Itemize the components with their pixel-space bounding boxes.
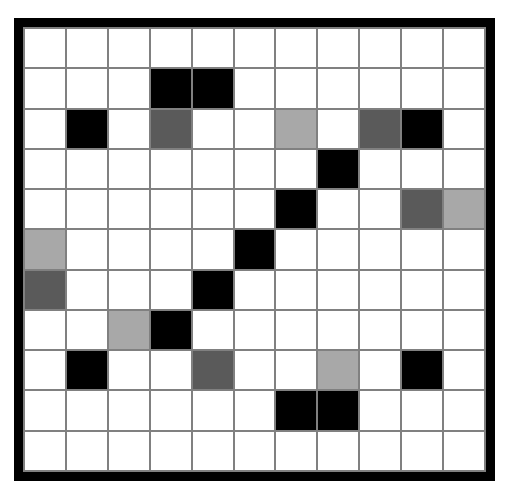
grid-cell[interactable] [444, 190, 484, 228]
grid-cell[interactable] [193, 110, 233, 148]
grid-cell[interactable] [109, 150, 149, 188]
grid-cell[interactable] [276, 29, 316, 67]
grid-cell[interactable] [402, 271, 442, 309]
grid-cell[interactable] [402, 69, 442, 107]
grid-cell[interactable] [444, 432, 484, 470]
grid-cell[interactable] [276, 391, 316, 429]
grid-cell[interactable] [444, 230, 484, 268]
grid-cell[interactable] [193, 311, 233, 349]
grid-cell[interactable] [235, 391, 275, 429]
grid-cell[interactable] [235, 271, 275, 309]
grid-cell[interactable] [360, 351, 400, 389]
grid-cell[interactable] [151, 110, 191, 148]
grid-cell[interactable] [193, 29, 233, 67]
grid-cell[interactable] [444, 311, 484, 349]
grid-cell[interactable] [25, 311, 65, 349]
grid-cell[interactable] [25, 391, 65, 429]
grid-cell[interactable] [402, 391, 442, 429]
grid-cell[interactable] [109, 351, 149, 389]
grid-cell[interactable] [151, 311, 191, 349]
grid-cell[interactable] [444, 391, 484, 429]
grid-cell[interactable] [67, 190, 107, 228]
grid-cell[interactable] [151, 271, 191, 309]
grid-cell[interactable] [402, 230, 442, 268]
grid-cell[interactable] [67, 311, 107, 349]
grid-cell[interactable] [360, 230, 400, 268]
grid-cell[interactable] [360, 271, 400, 309]
grid-cell[interactable] [444, 351, 484, 389]
grid-cell[interactable] [235, 190, 275, 228]
grid-cell[interactable] [25, 110, 65, 148]
grid-cell[interactable] [444, 150, 484, 188]
grid-cell[interactable] [193, 190, 233, 228]
grid-cell[interactable] [67, 230, 107, 268]
grid-cell[interactable] [276, 351, 316, 389]
grid-cell[interactable] [276, 150, 316, 188]
grid-cell[interactable] [360, 311, 400, 349]
grid-cell[interactable] [235, 432, 275, 470]
grid-cell[interactable] [235, 69, 275, 107]
grid-cell[interactable] [276, 190, 316, 228]
grid-cell[interactable] [67, 271, 107, 309]
grid-cell[interactable] [360, 432, 400, 470]
grid-cell[interactable] [402, 351, 442, 389]
grid-cell[interactable] [276, 230, 316, 268]
grid-cell[interactable] [360, 190, 400, 228]
grid-cell[interactable] [276, 69, 316, 107]
grid-cell[interactable] [360, 150, 400, 188]
grid-cell[interactable] [402, 29, 442, 67]
grid-cell[interactable] [235, 110, 275, 148]
grid-cell[interactable] [25, 351, 65, 389]
grid-cell[interactable] [25, 29, 65, 67]
grid-cell[interactable] [318, 150, 358, 188]
grid-cell[interactable] [67, 391, 107, 429]
grid-cell[interactable] [318, 351, 358, 389]
grid-cell[interactable] [109, 190, 149, 228]
grid-cell[interactable] [193, 391, 233, 429]
grid-cell[interactable] [402, 190, 442, 228]
grid-cell[interactable] [193, 230, 233, 268]
grid-cell[interactable] [360, 391, 400, 429]
grid-cell[interactable] [67, 150, 107, 188]
grid-cell[interactable] [109, 391, 149, 429]
grid-cell[interactable] [151, 190, 191, 228]
grid-cell[interactable] [402, 311, 442, 349]
grid-cell[interactable] [235, 230, 275, 268]
grid-cell[interactable] [444, 110, 484, 148]
grid-cell[interactable] [109, 69, 149, 107]
grid-cell[interactable] [67, 110, 107, 148]
grid-cell[interactable] [318, 29, 358, 67]
grid-cell[interactable] [444, 29, 484, 67]
grid-cell[interactable] [318, 190, 358, 228]
grid-cell[interactable] [444, 69, 484, 107]
grid-cell[interactable] [235, 150, 275, 188]
grid-cell[interactable] [151, 29, 191, 67]
grid-cell[interactable] [109, 110, 149, 148]
grid-cell[interactable] [360, 110, 400, 148]
grid-cell[interactable] [235, 29, 275, 67]
grid-cell[interactable] [25, 432, 65, 470]
grid-cell[interactable] [151, 69, 191, 107]
grid-cell[interactable] [276, 311, 316, 349]
grid-cell[interactable] [109, 271, 149, 309]
grid-cell[interactable] [360, 29, 400, 67]
grid-cell[interactable] [318, 271, 358, 309]
grid-cell[interactable] [67, 351, 107, 389]
grid-cell[interactable] [235, 311, 275, 349]
grid-cell[interactable] [402, 432, 442, 470]
grid-cell[interactable] [318, 311, 358, 349]
grid-cell[interactable] [402, 110, 442, 148]
grid-cell[interactable] [25, 69, 65, 107]
grid-cell[interactable] [276, 432, 316, 470]
grid-cell[interactable] [25, 190, 65, 228]
grid-cell[interactable] [360, 69, 400, 107]
grid-container[interactable] [23, 27, 486, 472]
grid-cell[interactable] [151, 391, 191, 429]
grid-cell[interactable] [276, 110, 316, 148]
grid-cell[interactable] [151, 230, 191, 268]
grid-cell[interactable] [67, 29, 107, 67]
grid-cell[interactable] [193, 351, 233, 389]
grid-cell[interactable] [109, 311, 149, 349]
grid-cell[interactable] [318, 230, 358, 268]
grid-cell[interactable] [193, 69, 233, 107]
